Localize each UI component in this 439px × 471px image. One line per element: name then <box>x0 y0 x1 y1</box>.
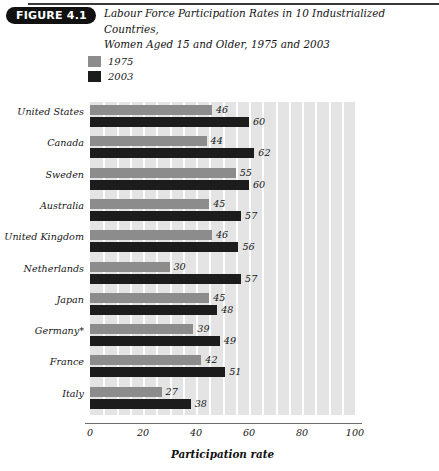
figure-title-line-1: Labour Force Participation Rates in 10 I… <box>104 7 385 35</box>
figure-header: FIGURE 4.1 Labour Force Participation Ra… <box>0 0 439 52</box>
chart-row: Japan4548 <box>0 290 439 321</box>
bar-1975 <box>90 168 236 178</box>
legend-swatch-icon-1975 <box>88 56 101 67</box>
country-label: Sweden <box>0 169 84 180</box>
bar-value-label: 39 <box>197 323 209 334</box>
bar-value-label: 27 <box>166 386 178 397</box>
chart-row: United Kingdom4656 <box>0 227 439 258</box>
bar-2003 <box>90 211 241 221</box>
bar-1975 <box>90 324 193 334</box>
country-label: Canada <box>0 137 84 148</box>
bar-value-label: 38 <box>195 398 207 409</box>
bar-value-label: 56 <box>242 241 254 252</box>
x-axis-tick-label: 60 <box>234 427 264 438</box>
x-axis-line <box>85 423 362 424</box>
x-axis-tick-label: 0 <box>75 427 105 438</box>
chart-row: Netherlands3057 <box>0 259 439 290</box>
bar-2003 <box>90 336 220 346</box>
chart-row: Italy2738 <box>0 384 439 415</box>
figure-title-line-2: Women Aged 15 and Older, 1975 and 2003 <box>104 37 434 53</box>
bar-2003 <box>90 242 238 252</box>
bar-value-label: 49 <box>224 335 236 346</box>
country-label: Netherlands <box>0 263 84 274</box>
figure-title: Labour Force Participation Rates in 10 I… <box>104 6 434 53</box>
chart-row: United States4660 <box>0 102 439 133</box>
bar-value-label: 45 <box>213 198 225 209</box>
country-label: Australia <box>0 200 84 211</box>
x-axis-title: Participation rate <box>90 448 355 460</box>
chart-row: Canada4462 <box>0 133 439 164</box>
bar-1975 <box>90 136 207 146</box>
bar-1975 <box>90 262 170 272</box>
bar-1975 <box>90 387 162 397</box>
bar-value-label: 51 <box>229 366 241 377</box>
bar-value-label: 42 <box>205 354 217 365</box>
chart-row: France4251 <box>0 352 439 383</box>
bar-value-label: 60 <box>253 179 265 190</box>
bar-2003 <box>90 117 249 127</box>
chart-row: Australia4557 <box>0 196 439 227</box>
bar-chart: United States4660Canada4462Sweden5560Aus… <box>0 100 439 460</box>
country-label: United Kingdom <box>0 231 84 242</box>
x-axis-tick-label: 40 <box>181 427 211 438</box>
country-label: United States <box>0 106 84 117</box>
bar-value-label: 45 <box>213 292 225 303</box>
bar-value-label: 44 <box>211 135 223 146</box>
header-rule <box>28 3 439 5</box>
bar-value-label: 48 <box>221 304 233 315</box>
legend-label: 1975 <box>108 56 133 67</box>
bar-1975 <box>90 293 209 303</box>
country-label: France <box>0 356 84 367</box>
x-axis-tick-label: 100 <box>340 427 370 438</box>
country-label: Italy <box>0 388 84 399</box>
legend-swatch-icon-2003 <box>88 71 101 82</box>
bar-2003 <box>90 399 191 409</box>
bar-value-label: 57 <box>245 210 257 221</box>
chart-legend: 19752003 <box>88 55 133 85</box>
bar-1975 <box>90 199 209 209</box>
bar-1975 <box>90 105 212 115</box>
bar-2003 <box>90 274 241 284</box>
bar-2003 <box>90 367 225 377</box>
bar-value-label: 55 <box>240 167 252 178</box>
legend-item-2003: 2003 <box>88 70 133 83</box>
bar-1975 <box>90 355 201 365</box>
bar-value-label: 57 <box>245 273 257 284</box>
bar-value-label: 46 <box>216 229 228 240</box>
bar-2003 <box>90 148 254 158</box>
legend-item-1975: 1975 <box>88 55 133 68</box>
country-label: Japan <box>0 294 84 305</box>
x-axis-tick-label: 20 <box>128 427 158 438</box>
bar-value-label: 46 <box>216 104 228 115</box>
bar-2003 <box>90 305 217 315</box>
bar-1975 <box>90 230 212 240</box>
figure-number-badge: FIGURE 4.1 <box>6 7 96 24</box>
legend-label: 2003 <box>108 71 133 82</box>
bar-value-label: 30 <box>174 261 186 272</box>
bar-value-label: 60 <box>253 116 265 127</box>
chart-row: Germany*3949 <box>0 321 439 352</box>
chart-rows: United States4660Canada4462Sweden5560Aus… <box>0 100 439 413</box>
x-axis-tick-label: 80 <box>287 427 317 438</box>
bar-2003 <box>90 180 249 190</box>
chart-row: Sweden5560 <box>0 165 439 196</box>
country-label: Germany* <box>0 325 84 336</box>
bar-value-label: 62 <box>258 147 270 158</box>
